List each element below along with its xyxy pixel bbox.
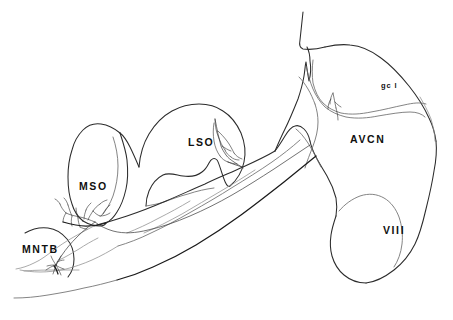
avcn-inner-fissure: [305, 104, 318, 168]
tract-lower-border: [14, 280, 117, 298]
mso-region: [68, 124, 128, 226]
tract-mid-border-1: [118, 140, 300, 246]
gcl-inner-border: [312, 60, 426, 114]
arbor-mso: [55, 198, 110, 229]
lso-outline: [139, 104, 245, 206]
tract-stria-2: [127, 201, 190, 233]
avcn-ventral-notch: [310, 141, 337, 216]
tract-upper-border: [94, 151, 275, 226]
tract-stria-1: [144, 170, 255, 233]
gcl-band: [312, 60, 435, 141]
tract-left-extension-3: [59, 238, 98, 260]
anatomy-figure: MNTB MSO LSO AVCN VIII gc l: [0, 0, 453, 320]
trapezoid-body-tract: [14, 140, 316, 298]
anatomy-drawing: [0, 0, 453, 320]
avcn-internal-borders: [296, 66, 425, 267]
avcn-medial-border: [275, 47, 311, 151]
label-viii: VIII: [383, 224, 405, 236]
arbor-avcn: [328, 93, 341, 120]
arbor-lso: [213, 119, 243, 167]
label-lso: LSO: [188, 136, 214, 148]
label-mso: MSO: [79, 180, 108, 192]
dorsal-stalk-outline: [300, 12, 325, 49]
mso-outline: [68, 124, 120, 221]
lso-ventral-edge: [146, 188, 214, 206]
label-gcl: gc l: [381, 81, 398, 90]
avcn-region: [275, 12, 436, 283]
lso-medial-lobe: [120, 133, 139, 167]
avcn-dorsal-border: [325, 45, 436, 141]
mso-inner-band: [101, 137, 118, 216]
avcn-lateral-border: [366, 141, 436, 283]
label-avcn: AVCN: [350, 133, 385, 145]
mntb-ventral-edge: [24, 270, 79, 271]
label-mntb: MNTB: [22, 243, 59, 255]
tract-main-bundle: [117, 156, 316, 280]
avcn-gcl-boundary: [306, 66, 425, 118]
viii-ventral-border: [330, 216, 366, 283]
